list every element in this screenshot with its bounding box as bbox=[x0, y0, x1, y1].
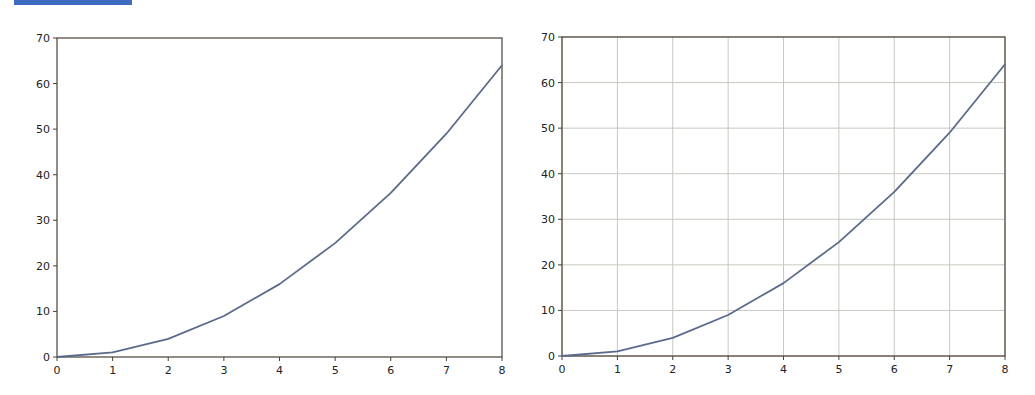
charts-canvas: 0123456780102030405060700123456780102030… bbox=[0, 0, 1035, 395]
y-tick-label: 70 bbox=[36, 32, 50, 45]
x-tick-label: 7 bbox=[443, 364, 450, 377]
x-tick-label: 6 bbox=[891, 363, 898, 376]
x-tick-label: 8 bbox=[1002, 363, 1009, 376]
y-tick-label: 20 bbox=[541, 259, 555, 272]
y-tick-label: 70 bbox=[541, 31, 555, 44]
chart-1: 012345678010203040506070 bbox=[36, 32, 506, 377]
plot-frame bbox=[57, 38, 502, 357]
x-tick-label: 7 bbox=[946, 363, 953, 376]
x-tick-label: 0 bbox=[54, 364, 61, 377]
y-tick-label: 20 bbox=[36, 260, 50, 273]
x-tick-label: 2 bbox=[165, 364, 172, 377]
data-line bbox=[57, 65, 502, 357]
x-tick-label: 3 bbox=[220, 364, 227, 377]
y-tick-label: 60 bbox=[36, 78, 50, 91]
y-tick-label: 30 bbox=[541, 213, 555, 226]
chart-2: 012345678010203040506070 bbox=[541, 31, 1009, 376]
x-tick-label: 8 bbox=[499, 364, 506, 377]
y-tick-label: 0 bbox=[43, 351, 50, 364]
y-tick-label: 40 bbox=[36, 169, 50, 182]
grid-lines bbox=[562, 37, 1005, 356]
x-tick-label: 4 bbox=[276, 364, 283, 377]
y-tick-label: 50 bbox=[36, 123, 50, 136]
y-tick-label: 50 bbox=[541, 122, 555, 135]
y-tick-label: 10 bbox=[36, 305, 50, 318]
x-tick-label: 1 bbox=[109, 364, 116, 377]
y-tick-label: 0 bbox=[548, 350, 555, 363]
y-tick-label: 10 bbox=[541, 304, 555, 317]
y-tick-label: 40 bbox=[541, 168, 555, 181]
x-tick-label: 0 bbox=[559, 363, 566, 376]
x-tick-label: 6 bbox=[387, 364, 394, 377]
y-tick-label: 60 bbox=[541, 77, 555, 90]
x-tick-label: 5 bbox=[332, 364, 339, 377]
x-tick-label: 2 bbox=[669, 363, 676, 376]
x-tick-label: 3 bbox=[725, 363, 732, 376]
x-tick-label: 4 bbox=[780, 363, 787, 376]
x-tick-label: 5 bbox=[835, 363, 842, 376]
y-tick-label: 30 bbox=[36, 214, 50, 227]
x-tick-label: 1 bbox=[614, 363, 621, 376]
